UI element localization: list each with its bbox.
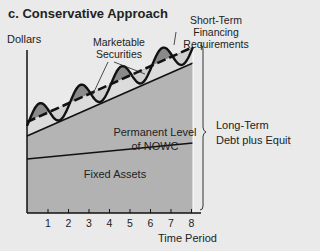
x-tick-label: 1 xyxy=(45,217,51,229)
x-tick-label: 8 xyxy=(189,217,195,229)
long-term-label-line1: Long-Term xyxy=(216,118,291,133)
permanent-nowc-label-line1: Permanent Level xyxy=(100,125,210,139)
marketable-securities-label: Marketable Securities xyxy=(88,36,150,60)
x-tick-label: 3 xyxy=(86,217,92,229)
long-term-debt-equity-label: Long-Term Debt plus Equity xyxy=(216,118,291,148)
x-tick-label: 2 xyxy=(66,217,72,229)
permanent-nowc-label-line2: of NOWC xyxy=(100,139,210,153)
x-axis-label: Time Period xyxy=(158,232,217,244)
long-term-label-line2: Debt plus Equity xyxy=(216,133,291,148)
x-tick-label: 4 xyxy=(107,217,113,229)
permanent-nowc-label: Permanent Level of NOWC xyxy=(100,125,210,153)
x-tick-label: 5 xyxy=(127,217,133,229)
short-term-financing-label: Short-Term Financing Requirements xyxy=(170,14,262,50)
x-tick-label: 7 xyxy=(168,217,174,229)
fixed-assets-label: Fixed Assets xyxy=(80,168,150,180)
x-tick-label: 6 xyxy=(148,217,154,229)
